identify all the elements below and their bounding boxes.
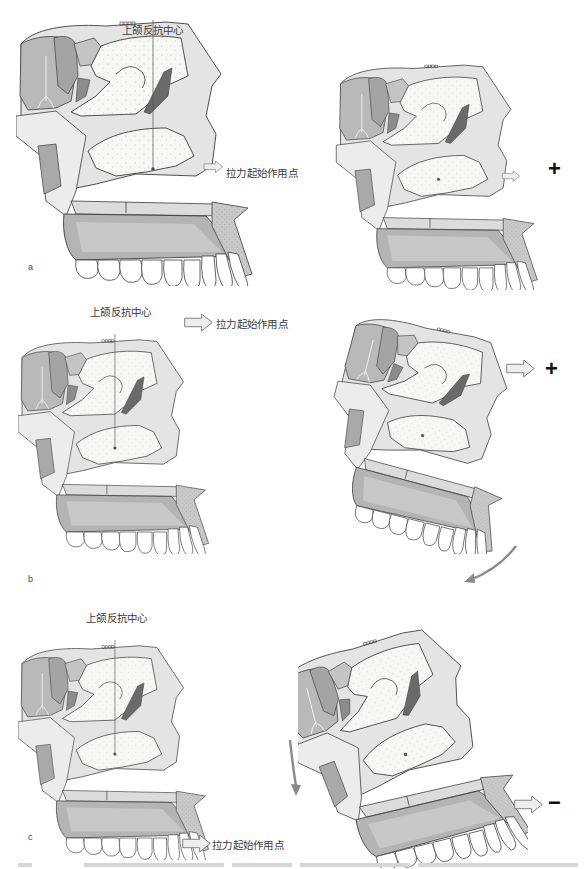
resistance-center-dot: [113, 752, 116, 755]
force-sign-plus: +: [545, 358, 558, 380]
resistance-center-label: 上颌反抗中心: [90, 304, 152, 319]
force-arrow-icon: [182, 835, 212, 853]
skull-illustration-c-left: [18, 640, 228, 860]
skull-illustration-b-right: [328, 314, 538, 554]
panel-letter-a: a: [28, 262, 33, 272]
force-sign-plus: +: [548, 158, 561, 180]
panel-b: 上颌反抗中心 拉力起始作用点 + b: [0, 290, 584, 600]
panel-c: 上颌反抗中心 拉力起始作用点 − c: [0, 600, 584, 855]
rotation-arrow-icon: [460, 542, 520, 586]
force-sign-minus: −: [548, 792, 561, 814]
force-origin-label: 拉力起始作用点: [212, 837, 284, 852]
resistance-center-label: 上颌反抗中心: [122, 22, 184, 37]
force-arrow-icon: [184, 314, 214, 332]
skull-illustration-a-left: [16, 16, 276, 286]
force-arrow-icon: [514, 796, 544, 814]
resistance-center-dot: [113, 446, 116, 449]
panel-letter-c: c: [28, 832, 33, 842]
skull-illustration-b-left: [18, 334, 228, 554]
panel-a: 上颌反抗中心 拉力起始作用点 + a: [0, 0, 584, 290]
force-origin-label: 拉力起始作用点: [226, 165, 298, 180]
resistance-center-dot: [151, 167, 155, 171]
force-arrow-icon: [506, 360, 536, 378]
resistance-center-label: 上颌反抗中心: [86, 610, 148, 625]
skull-illustration-c-right: [298, 628, 528, 868]
force-origin-label: 拉力起始作用点: [216, 316, 288, 331]
skull-illustration-a-right: [332, 60, 562, 290]
figure-caption-cutoff: [18, 860, 578, 869]
rotation-arrow-icon: [284, 738, 304, 798]
panel-letter-b: b: [28, 574, 33, 584]
